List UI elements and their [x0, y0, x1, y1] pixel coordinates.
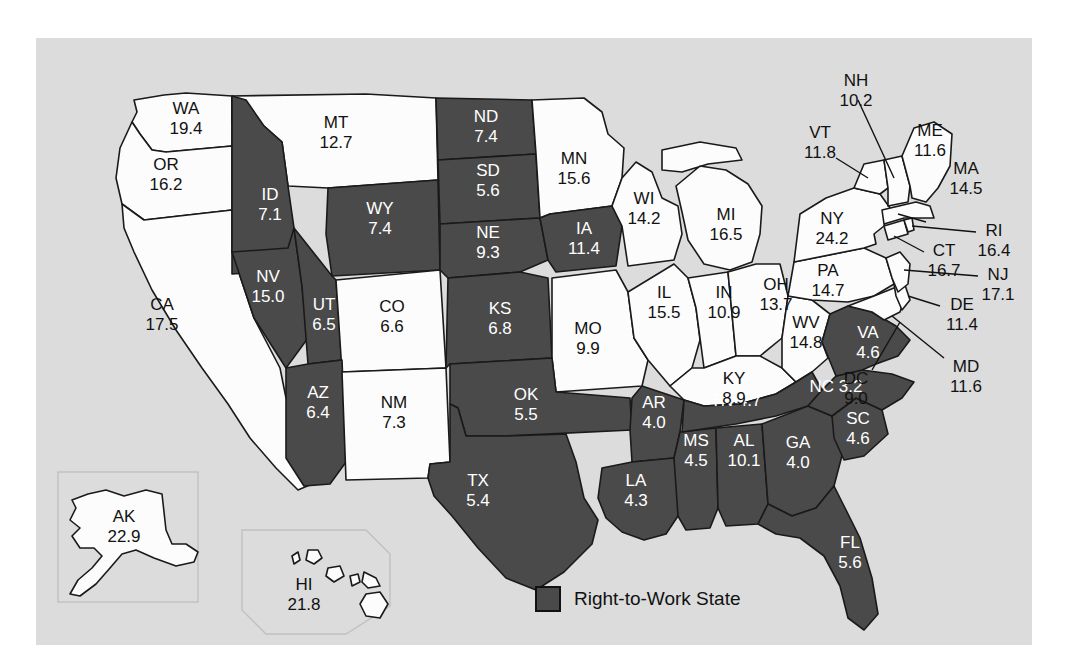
svg-text:13.7: 13.7 — [759, 295, 792, 314]
state-label-WA: WA 19.4 — [169, 99, 202, 138]
svg-text:15.5: 15.5 — [647, 303, 680, 322]
svg-text:ID: ID — [262, 185, 279, 204]
svg-text:6.6: 6.6 — [380, 317, 404, 336]
svg-text:6.4: 6.4 — [306, 403, 330, 422]
state-label-VT: VT 11.8 — [804, 123, 836, 162]
svg-text:7.4: 7.4 — [368, 219, 392, 238]
state-label-RI: RI 16.4 — [977, 221, 1010, 260]
svg-text:5.6: 5.6 — [838, 553, 862, 572]
svg-text:4.0: 4.0 — [786, 453, 810, 472]
svg-text:AR: AR — [642, 393, 666, 412]
state-label-OR: OR 16.2 — [149, 155, 182, 194]
svg-text:5.5: 5.5 — [514, 405, 538, 424]
state-label-MA: MA 14.5 — [949, 159, 982, 198]
svg-text:WI: WI — [634, 189, 655, 208]
svg-text:10.2: 10.2 — [839, 91, 872, 110]
svg-text:AZ: AZ — [307, 383, 329, 402]
svg-text:14.2: 14.2 — [627, 209, 660, 228]
state-label-CT: CT 16.7 — [927, 241, 960, 280]
state-label-AZ: AZ 6.4 — [306, 383, 330, 422]
state-label-NM: NM 7.3 — [381, 393, 407, 432]
state-label-KY: KY 8.9 — [722, 369, 746, 408]
state-label-ID: ID 7.1 — [258, 185, 282, 224]
state-label-GA: GA 4.0 — [786, 433, 811, 472]
leader-line-CT — [894, 236, 924, 252]
state-label-UT: UT 6.5 — [312, 295, 336, 334]
state-label-KS: KS 6.8 — [488, 299, 512, 338]
svg-text:11.6: 11.6 — [950, 377, 982, 396]
svg-text:TX: TX — [467, 471, 489, 490]
svg-text:11.4: 11.4 — [946, 315, 978, 334]
svg-text:CO: CO — [379, 297, 405, 316]
svg-text:9.0: 9.0 — [844, 389, 868, 408]
svg-text:22.9: 22.9 — [107, 527, 140, 546]
svg-text:NE: NE — [476, 223, 500, 242]
svg-text:MT: MT — [324, 113, 349, 132]
state-label-NY: NY 24.2 — [815, 209, 848, 248]
state-label-LA: LA 4.3 — [624, 471, 648, 510]
svg-text:16.4: 16.4 — [977, 241, 1010, 260]
svg-text:14.7: 14.7 — [811, 281, 844, 300]
svg-text:NJ: NJ — [988, 265, 1009, 284]
svg-text:17.5: 17.5 — [145, 315, 178, 334]
svg-text:VA: VA — [857, 323, 879, 342]
state-label-AR: AR 4.0 — [642, 393, 666, 432]
svg-text:SD: SD — [476, 161, 500, 180]
svg-text:IL: IL — [657, 283, 671, 302]
svg-text:16.2: 16.2 — [149, 175, 182, 194]
state-label-NJ: NJ 17.1 — [981, 265, 1014, 304]
svg-text:MN: MN — [561, 149, 587, 168]
svg-text:11.8: 11.8 — [804, 143, 836, 162]
svg-text:DE: DE — [950, 295, 974, 314]
svg-text:7.3: 7.3 — [382, 413, 406, 432]
legend-label: Right-to-Work State — [574, 588, 740, 609]
svg-text:4.5: 4.5 — [684, 451, 708, 470]
svg-text:OR: OR — [153, 155, 179, 174]
svg-text:AK: AK — [113, 507, 136, 526]
state-shape-AZ[interactable] — [286, 360, 346, 486]
svg-text:MI: MI — [717, 205, 736, 224]
svg-text:IN: IN — [716, 283, 733, 302]
svg-text:GA: GA — [786, 433, 811, 452]
svg-text:CT: CT — [933, 241, 956, 260]
svg-text:9.3: 9.3 — [476, 243, 500, 262]
state-label-MD: MD 11.6 — [950, 357, 982, 396]
svg-text:MS: MS — [683, 431, 709, 450]
state-label-DC: DC 9.0 — [844, 369, 869, 408]
svg-text:WY: WY — [366, 199, 393, 218]
us-union-membership-map: WA 19.4 OR 16.2 CA 17.5 MT 12.7 ID 7.1 W… — [36, 38, 1032, 645]
state-label-OK: OK 5.5 — [514, 385, 539, 424]
svg-text:6.5: 6.5 — [312, 315, 336, 334]
svg-text:NM: NM — [381, 393, 407, 412]
state-label-NH: NH 10.2 — [839, 71, 872, 110]
state-label-SD: SD 5.6 — [476, 161, 500, 200]
state-label-WV: WV 14.8 — [789, 313, 822, 352]
state-label-MN: MN 15.6 — [557, 149, 590, 188]
svg-text:4.6: 4.6 — [856, 343, 880, 362]
state-label-WY: WY 7.4 — [366, 199, 393, 238]
svg-text:ME: ME — [917, 121, 943, 140]
svg-text:KS: KS — [489, 299, 512, 318]
state-label-HI: HI 21.8 — [287, 575, 320, 614]
state-label-SC: SC 4.6 — [846, 409, 870, 448]
svg-text:MO: MO — [574, 319, 601, 338]
state-label-ME: ME 11.6 — [914, 121, 946, 160]
svg-text:10.1: 10.1 — [727, 451, 760, 470]
svg-text:UT: UT — [313, 295, 336, 314]
svg-text:15.0: 15.0 — [251, 287, 284, 306]
svg-text:4.3: 4.3 — [624, 491, 648, 510]
svg-text:DC: DC — [844, 369, 869, 388]
state-label-TX: TX 5.4 — [466, 471, 490, 510]
svg-text:5.6: 5.6 — [476, 181, 500, 200]
svg-text:6.8: 6.8 — [488, 319, 512, 338]
leader-line-RI — [912, 226, 976, 232]
state-shape-VT[interactable] — [854, 160, 888, 194]
svg-text:17.1: 17.1 — [981, 285, 1014, 304]
state-label-DE: DE 11.4 — [946, 295, 978, 334]
svg-text:11.4: 11.4 — [568, 239, 600, 258]
svg-text:RI: RI — [986, 221, 1003, 240]
svg-text:ND: ND — [474, 107, 499, 126]
svg-text:SC: SC — [846, 409, 870, 428]
svg-text:16.5: 16.5 — [709, 225, 742, 244]
state-label-MS: MS 4.5 — [683, 431, 709, 470]
